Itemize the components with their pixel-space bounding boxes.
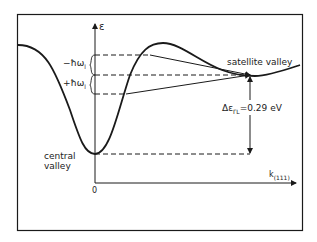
plus-phonon-label: +ħωl [63, 78, 86, 92]
band-structure-diagram: ε −ħωl +ħωl satellite valley central val… [0, 0, 317, 242]
brace-lower [90, 75, 95, 94]
energy-gap-label: ΔεΓL=0.29 eV [222, 103, 282, 117]
origin-label: 0 [92, 186, 97, 196]
central-valley-label-line2: valley [44, 161, 71, 171]
absorption-arrow [126, 75, 250, 94]
frame [18, 15, 303, 231]
central-valley-label-line1: central [44, 151, 75, 161]
y-axis-label: ε [99, 22, 104, 32]
satellite-valley-label: satellite valley [227, 57, 292, 67]
x-axis-label: k(111) [269, 170, 290, 183]
minus-phonon-label: −ħωl [63, 58, 86, 72]
diagram-graphics [0, 0, 317, 242]
brace-upper [90, 55, 95, 75]
